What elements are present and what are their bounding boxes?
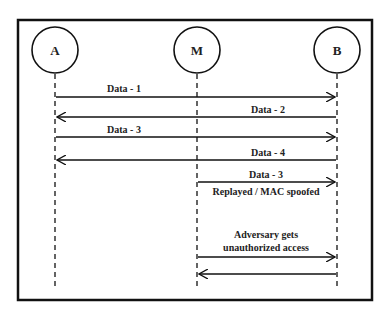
message-label-line2: unauthorized access	[223, 242, 309, 253]
message-label: Data - 3	[249, 169, 283, 180]
message-adversary-access: Adversary gets unauthorized access	[198, 229, 335, 257]
node-b: B	[314, 27, 360, 73]
message-sublabel: Replayed / MAC spoofed	[213, 186, 320, 197]
message-label: Data - 1	[107, 83, 141, 94]
message-data-3: Data - 3	[56, 124, 335, 137]
sequence-diagram: A M B Data - 1 Data - 2 Data - 3 Data - …	[0, 0, 386, 313]
node-m: M	[174, 27, 220, 73]
message-label: Data - 4	[251, 147, 285, 158]
message-label: Data - 2	[251, 104, 285, 115]
node-a-label: A	[50, 43, 60, 58]
node-a: A	[32, 27, 78, 73]
message-label-line1: Adversary gets	[234, 229, 298, 240]
message-replay: Data - 3 Replayed / MAC spoofed	[198, 169, 335, 197]
message-label: Data - 3	[107, 124, 141, 135]
node-b-label: B	[333, 43, 342, 58]
message-data-1: Data - 1	[56, 83, 335, 97]
node-m-label: M	[191, 43, 203, 58]
